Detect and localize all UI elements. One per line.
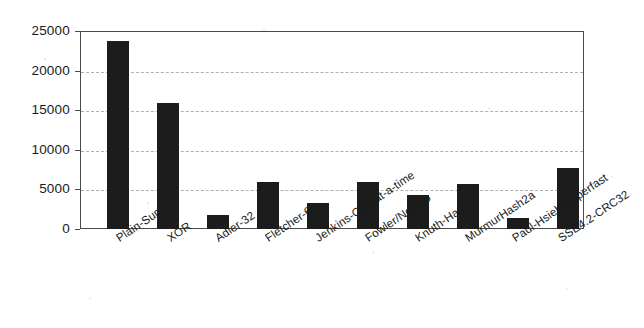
y-tick-label: 5000 (39, 182, 70, 196)
y-tick-mark (75, 229, 80, 230)
y-tick-label: 15000 (31, 103, 70, 117)
y-tick-label: 10000 (31, 143, 70, 157)
bar-fletcher-64 (257, 182, 279, 229)
y-tick-label: 0 (62, 222, 70, 236)
y-tick-label: 20000 (31, 64, 70, 78)
bar-chart-figure: 25000 20000 15000 10000 5000 0 Plain-Sum (0, 0, 644, 328)
bar-plain-sum (107, 41, 129, 230)
y-tick-label: 25000 (31, 24, 70, 38)
bars-layer (80, 31, 584, 229)
